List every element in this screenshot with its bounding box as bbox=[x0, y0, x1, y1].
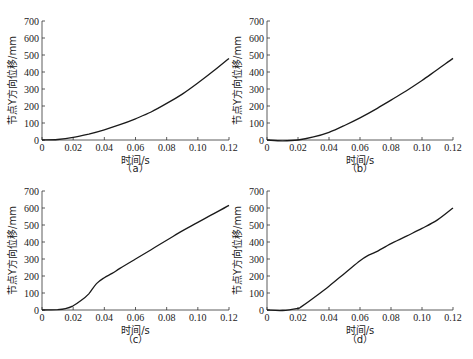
x-tick-label: 0.02 bbox=[289, 312, 307, 323]
y-tick-label: 200 bbox=[24, 271, 39, 282]
y-tick-label: 500 bbox=[249, 50, 264, 61]
y-tick-label: 300 bbox=[249, 254, 264, 265]
x-tick-label: 0.02 bbox=[64, 312, 82, 323]
panel-caption: （b） bbox=[347, 163, 373, 174]
y-tick-label: 0 bbox=[34, 305, 39, 316]
data-line bbox=[267, 208, 453, 311]
y-tick-label: 0 bbox=[34, 135, 39, 146]
x-tick-label: 0.04 bbox=[96, 312, 114, 323]
x-tick-label: 0.06 bbox=[351, 312, 369, 323]
x-tick-label: 0.12 bbox=[444, 312, 462, 323]
x-tick-label: 0.12 bbox=[444, 142, 462, 153]
chart-panel-a: 010020030040050060070000.020.040.060.080… bbox=[6, 16, 238, 175]
y-axis-label: 节点Y方向位移/mm bbox=[231, 206, 243, 295]
y-tick-label: 0 bbox=[259, 305, 264, 316]
x-tick-label: 0 bbox=[40, 312, 45, 323]
y-tick-label: 700 bbox=[24, 16, 39, 27]
x-tick-label: 0.10 bbox=[189, 142, 207, 153]
y-tick-label: 0 bbox=[259, 135, 264, 146]
y-tick-label: 100 bbox=[24, 118, 39, 129]
y-tick-label: 600 bbox=[24, 33, 39, 44]
y-tick-label: 100 bbox=[249, 288, 264, 299]
y-tick-label: 100 bbox=[249, 118, 264, 129]
panel-caption: （c） bbox=[123, 334, 149, 345]
x-tick-label: 0.02 bbox=[64, 142, 82, 153]
x-tick-label: 0.08 bbox=[382, 312, 400, 323]
x-tick-label: 0.04 bbox=[320, 312, 338, 323]
panel-caption: （a） bbox=[122, 163, 148, 174]
y-tick-label: 600 bbox=[249, 203, 264, 214]
x-tick-label: 0.12 bbox=[220, 312, 238, 323]
y-axis-label: 节点Y方向位移/mm bbox=[6, 36, 18, 125]
y-tick-label: 300 bbox=[249, 84, 264, 95]
y-tick-label: 200 bbox=[24, 101, 39, 112]
data-line bbox=[42, 205, 229, 310]
x-tick-label: 0 bbox=[265, 142, 270, 153]
x-tick-label: 0.04 bbox=[320, 142, 338, 153]
chart-panel-c: 010020030040050060070000.020.040.060.080… bbox=[6, 186, 238, 346]
x-tick-label: 0 bbox=[265, 312, 270, 323]
y-tick-label: 700 bbox=[24, 186, 39, 197]
y-tick-label: 300 bbox=[24, 254, 39, 265]
x-tick-label: 0.10 bbox=[413, 142, 431, 153]
x-tick-label: 0.06 bbox=[351, 142, 369, 153]
y-tick-label: 600 bbox=[249, 33, 264, 44]
y-tick-label: 400 bbox=[24, 67, 39, 78]
y-tick-label: 400 bbox=[249, 237, 264, 248]
y-tick-label: 600 bbox=[24, 203, 39, 214]
x-tick-label: 0.04 bbox=[96, 142, 114, 153]
x-tick-label: 0.08 bbox=[158, 142, 176, 153]
y-tick-label: 700 bbox=[249, 16, 264, 27]
x-tick-label: 0.06 bbox=[127, 312, 145, 323]
x-tick-label: 0.08 bbox=[382, 142, 400, 153]
x-tick-label: 0.02 bbox=[289, 142, 307, 153]
y-tick-label: 200 bbox=[249, 101, 264, 112]
y-axis-label: 节点Y方向位移/mm bbox=[6, 206, 18, 295]
y-tick-label: 400 bbox=[24, 237, 39, 248]
chart-figure: 010020030040050060070000.020.040.060.080… bbox=[0, 0, 473, 359]
y-tick-label: 400 bbox=[249, 67, 264, 78]
x-tick-label: 0.10 bbox=[413, 312, 431, 323]
y-axis-label: 节点Y方向位移/mm bbox=[231, 36, 243, 125]
y-tick-label: 700 bbox=[249, 186, 264, 197]
x-tick-label: 0.10 bbox=[189, 312, 207, 323]
y-tick-label: 200 bbox=[249, 271, 264, 282]
y-tick-label: 100 bbox=[24, 288, 39, 299]
data-line bbox=[267, 58, 453, 140]
y-tick-label: 500 bbox=[24, 220, 39, 231]
x-tick-label: 0.06 bbox=[127, 142, 145, 153]
x-tick-label: 0.08 bbox=[158, 312, 176, 323]
y-tick-label: 500 bbox=[249, 220, 264, 231]
data-line bbox=[42, 58, 229, 140]
y-tick-label: 500 bbox=[24, 50, 39, 61]
y-tick-label: 300 bbox=[24, 84, 39, 95]
panel-caption: （d） bbox=[347, 334, 373, 345]
chart-panel-d: 010020030040050060070000.020.040.060.080… bbox=[231, 186, 462, 346]
chart-panel-b: 010020030040050060070000.020.040.060.080… bbox=[231, 16, 462, 175]
x-tick-label: 0.12 bbox=[220, 142, 238, 153]
x-tick-label: 0 bbox=[40, 142, 45, 153]
